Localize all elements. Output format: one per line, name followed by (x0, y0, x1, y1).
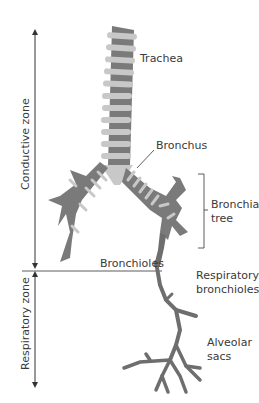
label-bronchioles: Bronchioles (100, 257, 164, 270)
alveolar-sacs-shape (124, 345, 200, 392)
label-alveolar-sacs-2: sacs (207, 350, 231, 363)
label-bronchial-tree-1: Bronchial (211, 198, 259, 211)
label-alveolar-sacs-1: Alveolar (207, 336, 252, 349)
label-respiratory-bronchioles-1: Respiratory (196, 269, 259, 282)
label-bronchial-tree-2: tree (211, 212, 233, 225)
label-trachea: Trachea (140, 52, 183, 65)
bronchus-leader-line (137, 150, 154, 168)
label-respiratory-bronchioles-2: bronchioles (196, 283, 259, 296)
label-bronchus: Bronchus (156, 139, 207, 152)
trachea-shape (101, 26, 137, 185)
label-conductive-zone: Conductive zone (19, 98, 32, 190)
right-bronchus-shape (122, 168, 188, 266)
label-respiratory-zone: Respiratory zone (19, 277, 32, 370)
left-bronchus-shape (48, 162, 108, 262)
airway-diagram: Trachea Bronchus Bronchial tree Bronchio… (0, 0, 259, 403)
bronchial-tree-bracket (198, 174, 208, 248)
